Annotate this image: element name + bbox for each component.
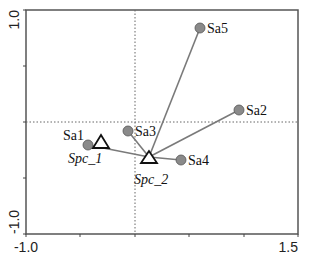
triangle-spc1-icon[interactable] <box>93 135 109 148</box>
label-sa2: Sa2 <box>246 103 267 118</box>
point-sa1[interactable] <box>83 140 93 150</box>
x-tick-label-right: 1.5 <box>279 239 299 255</box>
point-sa5[interactable] <box>195 23 205 33</box>
line-spc2-sa2 <box>149 110 239 157</box>
y-tick-label-top: 1.0 <box>6 10 22 30</box>
label-spc1: Spc_1 <box>68 151 102 166</box>
point-sa4[interactable] <box>176 155 186 165</box>
line-spc2-sa5 <box>149 28 200 157</box>
species-points <box>93 135 157 163</box>
label-sa3: Sa3 <box>135 124 156 139</box>
label-sa1: Sa1 <box>63 128 84 143</box>
label-spc2: Spc_2 <box>134 172 168 187</box>
label-sa4: Sa4 <box>188 153 209 168</box>
y-tick-label-bottom: -1.0 <box>6 210 22 234</box>
x-tick-label-left: -1.0 <box>14 239 38 255</box>
point-sa2[interactable] <box>234 105 244 115</box>
point-sa3[interactable] <box>123 126 133 136</box>
label-sa5: Sa5 <box>207 21 228 36</box>
ordination-plot: 1.0 -1.0 -1.0 1.5 Sa5 Sa2 Sa3 Sa1 Sa4 Sp… <box>0 0 309 262</box>
connection-lines <box>88 28 239 160</box>
